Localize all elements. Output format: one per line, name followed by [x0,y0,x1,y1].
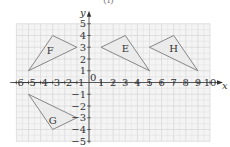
x-tick-label: 8 [183,77,189,88]
y-axis-arrow-icon [87,11,91,17]
y-axis-label: y [79,7,86,18]
x-tick-label: 1 [98,77,104,88]
triangle-label-g: G [49,115,57,126]
x-tick-label: 4 [134,77,140,88]
coordinate-grid-diagram: FEHG −6−5−4−3−2−112345678910−5−4−3−2−112… [0,0,230,147]
y-tick-label: −2 [71,101,86,112]
x-tick-label: 10 [204,77,217,88]
y-tick-label: 4 [80,30,86,41]
x-tick-label: 6 [158,77,164,88]
x-tick-label: 5 [146,77,152,88]
triangle-label-f: F [47,45,54,56]
x-tick-label: 7 [171,77,177,88]
y-tick-label: 5 [80,18,86,29]
y-tick-label: −5 [71,136,86,147]
x-tick-label: 9 [195,77,201,88]
y-tick-label: 3 [80,42,86,53]
origin-label: 0 [90,72,96,83]
triangle-label-e: E [122,43,129,54]
x-tick-label: 3 [122,77,128,88]
x-tick-label: 2 [110,77,116,88]
y-tick-label: 1 [80,65,86,76]
y-tick-label: −3 [71,112,86,123]
y-tick-label: −1 [71,89,86,100]
triangle-label-h: H [169,43,178,54]
y-tick-label: −4 [71,124,86,135]
x-tick-label: −1 [70,77,85,88]
y-tick-label: 2 [80,54,86,65]
x-axis-label: x [222,80,228,91]
